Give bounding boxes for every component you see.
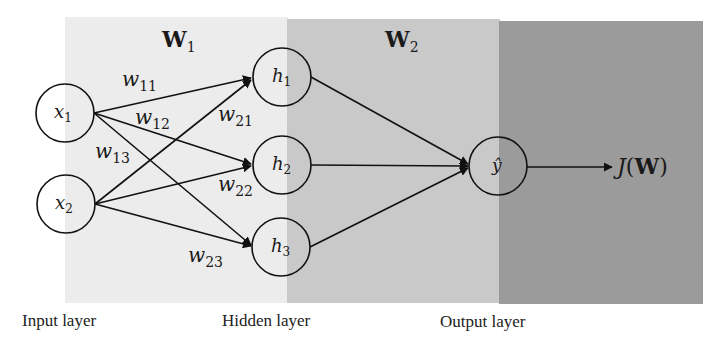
hidden-layer-panel: [287, 19, 500, 303]
loss-function-label: J(W): [613, 153, 668, 179]
hidden-layer-label: Hidden layer: [222, 311, 310, 331]
input-layer-label: Input layer: [22, 311, 96, 331]
edge-h2-yhat: [311, 165, 468, 166]
output-layer-panel: [499, 21, 703, 304]
output-layer-label: Output layer: [440, 312, 525, 332]
neural-network-diagram: W1 W2 w11 w12 w13 w21 w22 w23 x1 x2 h1 h…: [0, 0, 728, 351]
node-yhat-label: ŷ: [491, 155, 502, 175]
